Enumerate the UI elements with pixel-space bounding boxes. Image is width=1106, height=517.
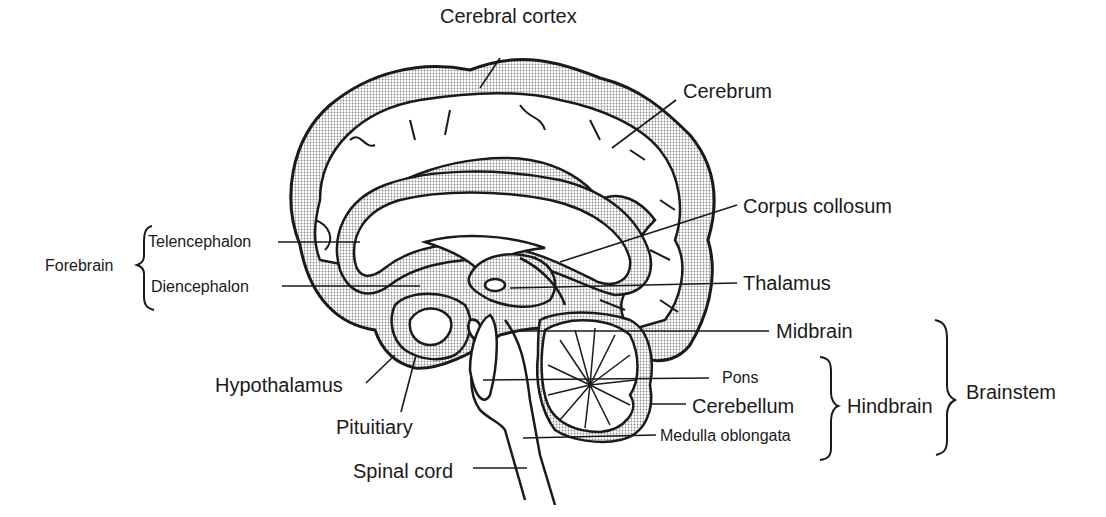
hindbrain-brace xyxy=(820,357,838,460)
label-cerebrum: Cerebrum xyxy=(683,81,772,101)
label-telencephalon: Telencephalon xyxy=(148,234,251,250)
label-midbrain: Midbrain xyxy=(776,321,853,341)
brain-illustration xyxy=(0,0,1106,517)
label-medulla-oblongata: Medulla oblongata xyxy=(660,428,791,444)
brainstem-brace xyxy=(935,320,955,455)
label-pituitiary: Pituitiary xyxy=(336,417,413,437)
label-hypothalamus: Hypothalamus xyxy=(215,375,343,395)
label-brainstem: Brainstem xyxy=(966,382,1056,402)
label-cerebellum: Cerebellum xyxy=(692,396,794,416)
label-corpus-collosum: Corpus collosum xyxy=(743,196,892,216)
label-diencephalon: Diencephalon xyxy=(151,279,249,295)
cerebellum-shape xyxy=(537,313,652,442)
label-thalamus: Thalamus xyxy=(743,273,831,293)
label-pons: Pons xyxy=(722,370,758,386)
label-forebrain: Forebrain xyxy=(45,258,113,274)
label-spinal-cord: Spinal cord xyxy=(353,461,453,481)
label-cerebral-cortex: Cerebral cortex xyxy=(440,6,577,26)
label-hindbrain: Hindbrain xyxy=(847,396,933,416)
brain-diagram: Cerebral cortex Cerebrum Corpus collosum… xyxy=(0,0,1106,517)
